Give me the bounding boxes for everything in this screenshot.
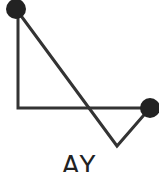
diagram-label: AY [0, 153, 159, 172]
vertical-leg [18, 9, 150, 108]
diagram-canvas [0, 0, 159, 172]
diagonal-path [16, 9, 150, 146]
